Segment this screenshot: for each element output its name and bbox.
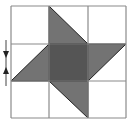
pinwheel-grid-diagram [0,0,134,124]
center-square [49,44,88,81]
